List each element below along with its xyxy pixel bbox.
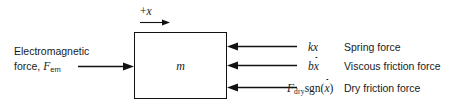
spring-force-description: Spring force [344,41,401,54]
sgn-function: sgn( [305,82,325,94]
axis-direction-arrow [140,18,170,27]
viscous-friction-force-expression: bx [308,60,319,72]
sgn-close-paren: ) [330,82,334,94]
mass-symbol: m [134,59,227,74]
spring-force-arrow [227,42,297,51]
free-body-diagram: +x m Electromagnetic force, Fem kx Sprin… [0,0,475,108]
derivative-dot-icon [316,57,318,59]
electromagnetic-force-line2: force, Fem [14,60,61,72]
axis-label-plus-x: +x [140,5,152,17]
axis-label-variable: x [147,5,152,17]
derivative-dot-icon [326,79,328,81]
electromagnetic-force-line1: Electromagnetic [14,45,89,57]
electromagnetic-force-label: Electromagnetic force, Fem [14,44,89,77]
x-dot-viscous: x [314,60,319,72]
x-dot-dry: x [324,82,329,94]
electromagnetic-force-subscript: em [50,65,60,74]
viscous-friction-force-description: Viscous friction force [344,60,441,73]
spring-force-expression: kx [308,41,318,53]
dry-friction-force-description: Dry friction force [344,82,420,95]
dry-friction-force-expression: Fdrysgn(x) [287,82,333,96]
electromagnetic-force-arrow [78,62,134,71]
viscous-friction-force-arrow [227,61,297,70]
dry-subscript: dry [294,87,305,96]
